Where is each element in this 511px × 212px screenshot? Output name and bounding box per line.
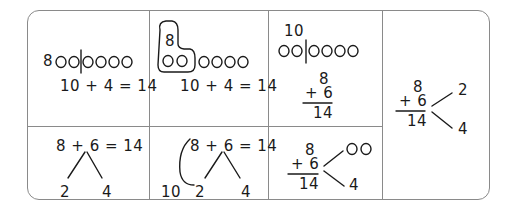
- number-bond-bottom-1: [68, 152, 102, 178]
- branches-right-tall: [396, 93, 452, 128]
- ten-frame-circles-top-3: [279, 40, 358, 103]
- number-bond-bottom-3: [288, 144, 371, 187]
- ten-frame-circles-top-1: [56, 50, 132, 73]
- number-bond-bottom-2: [180, 139, 240, 185]
- handwritten-strokes: [0, 0, 511, 212]
- grouped-ten-top-2: [158, 21, 248, 72]
